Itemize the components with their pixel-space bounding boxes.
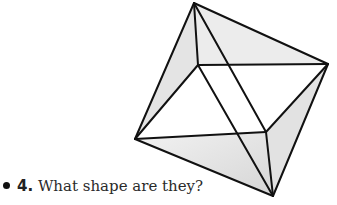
octahedron-figure [0, 0, 337, 205]
bullet-icon [3, 182, 10, 189]
question-number: 4. [17, 177, 33, 195]
question-item: 4. What shape are they? [3, 177, 203, 195]
question-text: What shape are they? [33, 177, 203, 195]
